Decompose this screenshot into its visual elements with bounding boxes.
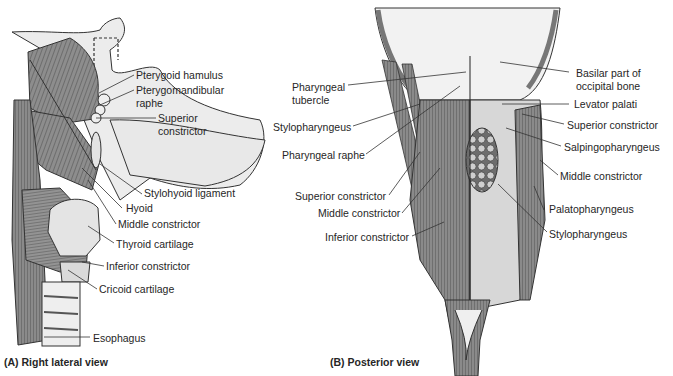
label-superior-constrictor-right: Superior constrictor [567, 119, 658, 131]
label-hyoid: Hyoid [126, 202, 153, 214]
caption-panel-a: (A) Right lateral view [4, 356, 108, 368]
label-thyroid-cartilage: Thyroid cartilage [116, 238, 194, 250]
label-cricoid-cartilage: Cricoid cartilage [99, 283, 174, 295]
label-pharyngeal-raphe: Pharyngeal raphe [282, 149, 365, 161]
label-stylopharyngeus-right: Stylopharyngeus [549, 228, 627, 240]
hyoid-bone [91, 132, 101, 168]
tongue-papillae [466, 128, 498, 192]
label-superior-constrictor-left: Superior constrictor [295, 190, 386, 202]
label-esophagus: Esophagus [93, 332, 146, 344]
label-stylopharyngeus-left: Stylopharyngeus [273, 121, 351, 133]
panel-a-drawing [12, 18, 265, 346]
label-middle-constrictor: Middle constrictor [118, 218, 200, 230]
label-levator-palati: Levator palati [574, 98, 637, 110]
label-pterygoid-hamulus: Pterygoid hamulus [136, 69, 223, 81]
label-inferior-constrictor-left: Inferior constrictor [325, 231, 409, 243]
label-pharyngeal: Pharyngeal [292, 81, 345, 93]
label-tubercle: tubercle [292, 94, 329, 106]
label-stylohyoid-ligament: Stylohyoid ligament [144, 187, 235, 199]
anatomy-illustration [0, 0, 673, 376]
label-middle-constrictor-right: Middle constrictor [560, 170, 642, 182]
label-constrictor: constrictor [158, 125, 206, 137]
label-pterygomandibular: Pterygomandibular [136, 84, 224, 96]
label-raphe: raphe [136, 97, 163, 109]
label-middle-constrictor-left: Middle constrictor [318, 207, 400, 219]
cricoid-cartilage [60, 262, 90, 282]
thyroid-cartilage [48, 199, 100, 256]
label-superior: Superior [158, 112, 198, 124]
label-basilar-part: Basilar part of [576, 67, 641, 79]
label-salpingopharyngeus: Salpingopharyngeus [564, 141, 660, 153]
label-palatopharyngeus: Palatopharyngeus [549, 203, 634, 215]
label-inferior-constrictor: Inferior constrictor [106, 260, 190, 272]
label-occipital-bone: occipital bone [576, 80, 640, 92]
caption-panel-b: (B) Posterior view [330, 356, 419, 368]
